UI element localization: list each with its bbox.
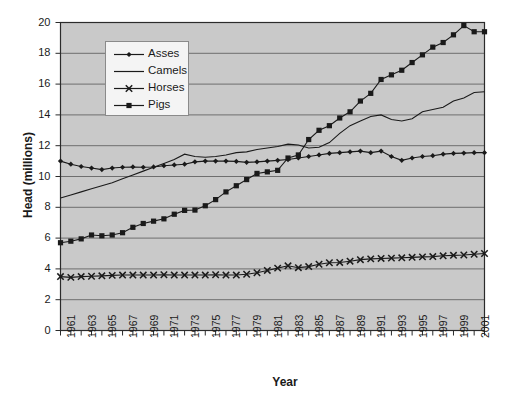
data-point-marker	[378, 77, 383, 82]
data-point-marker	[306, 137, 311, 142]
x-tick-label-1981: 1981	[272, 314, 284, 337]
data-point-marker	[172, 212, 177, 217]
data-point-marker	[472, 29, 477, 34]
x-tick-label-1987: 1987	[334, 314, 346, 337]
legend-label: Horses	[148, 81, 184, 93]
x-tick-label-1975: 1975	[210, 314, 222, 337]
x-tick-label-1983: 1983	[293, 314, 305, 337]
x-tick-label-1997: 1997	[437, 314, 449, 337]
x-tick-label-1989: 1989	[355, 314, 367, 337]
y-tick-label-6: 6	[25, 231, 51, 243]
legend-swatch-filled-diamond	[112, 46, 146, 63]
x-tick-label-1995: 1995	[417, 314, 429, 337]
data-point-marker	[234, 183, 239, 188]
y-tick-label-12: 12	[25, 139, 51, 151]
data-point-marker	[151, 219, 156, 224]
data-point-marker	[203, 203, 208, 208]
data-point-marker	[358, 98, 363, 103]
data-point-marker	[99, 233, 104, 238]
data-point-marker	[79, 236, 84, 241]
legend-item-camels: Camels	[110, 63, 188, 80]
data-point-marker	[451, 32, 456, 37]
data-point-marker	[430, 45, 435, 50]
y-tick-label-8: 8	[25, 200, 51, 212]
legend-label: Camels	[148, 64, 187, 76]
line-chart-plot	[0, 0, 508, 399]
y-tick-label-16: 16	[25, 77, 51, 89]
y-tick-label-4: 4	[25, 262, 51, 274]
y-tick-label-14: 14	[25, 108, 51, 120]
x-tick-label-1971: 1971	[168, 314, 180, 337]
x-tick-label-1979: 1979	[251, 314, 263, 337]
x-tick-label-1973: 1973	[189, 314, 201, 337]
data-point-marker	[461, 23, 466, 28]
legend-swatch-filled-square	[112, 97, 146, 114]
x-tick-label-1969: 1969	[148, 314, 160, 337]
x-tick-label-1977: 1977	[230, 314, 242, 337]
chart-container: Head (millions) Year 02468101214161820 1…	[0, 0, 508, 399]
y-tick-label-10: 10	[25, 170, 51, 182]
data-point-marker	[141, 221, 146, 226]
x-axis-title: Year	[205, 375, 365, 389]
y-tick-label-18: 18	[25, 46, 51, 58]
chart-legend: AssesCamelsHorsesPigs	[105, 41, 189, 116]
legend-swatch-x-cross	[112, 80, 146, 97]
data-point-marker	[368, 91, 373, 96]
data-point-marker	[182, 208, 187, 213]
data-point-marker	[68, 239, 73, 244]
data-point-marker	[89, 232, 94, 237]
x-tick-label-1967: 1967	[127, 314, 139, 337]
x-tick-label-1999: 1999	[458, 314, 470, 337]
data-point-marker	[120, 230, 125, 235]
data-point-marker	[130, 225, 135, 230]
legend-swatch-none	[112, 63, 146, 80]
data-point-marker	[192, 207, 197, 212]
x-tick-label-1985: 1985	[313, 314, 325, 337]
data-point-marker	[244, 177, 249, 182]
data-point-marker	[399, 68, 404, 73]
data-point-marker	[337, 115, 342, 120]
data-point-marker	[441, 40, 446, 45]
data-point-marker	[285, 155, 290, 160]
legend-label: Asses	[148, 47, 179, 59]
data-point-marker	[223, 189, 228, 194]
data-point-marker	[296, 152, 301, 157]
data-point-marker	[410, 60, 415, 65]
data-point-marker	[161, 216, 166, 221]
legend-item-horses: Horses	[110, 80, 188, 97]
legend-label: Pigs	[148, 98, 170, 110]
data-point-marker	[347, 109, 352, 114]
data-point-marker	[110, 232, 115, 237]
data-point-marker	[275, 168, 280, 173]
y-tick-label-2: 2	[25, 293, 51, 305]
data-point-marker	[254, 171, 259, 176]
x-tick-label-1993: 1993	[396, 314, 408, 337]
data-point-marker	[327, 123, 332, 128]
data-point-marker	[420, 52, 425, 57]
data-point-marker	[126, 103, 131, 108]
y-tick-label-20: 20	[25, 16, 51, 28]
x-tick-label-1963: 1963	[86, 314, 98, 337]
x-tick-label-2001: 2001	[479, 314, 491, 337]
data-point-marker	[213, 197, 218, 202]
legend-item-pigs: Pigs	[110, 97, 188, 114]
data-point-marker	[482, 29, 487, 34]
x-tick-label-1965: 1965	[106, 314, 118, 337]
data-point-marker	[126, 52, 131, 57]
y-tick-label-0: 0	[25, 324, 51, 336]
data-point-marker	[389, 72, 394, 77]
x-tick-label-1961: 1961	[65, 314, 77, 337]
data-point-marker	[265, 169, 270, 174]
data-point-marker	[316, 128, 321, 133]
legend-item-asses: Asses	[110, 46, 188, 63]
x-tick-label-1991: 1991	[375, 314, 387, 337]
data-point-marker	[58, 240, 63, 245]
